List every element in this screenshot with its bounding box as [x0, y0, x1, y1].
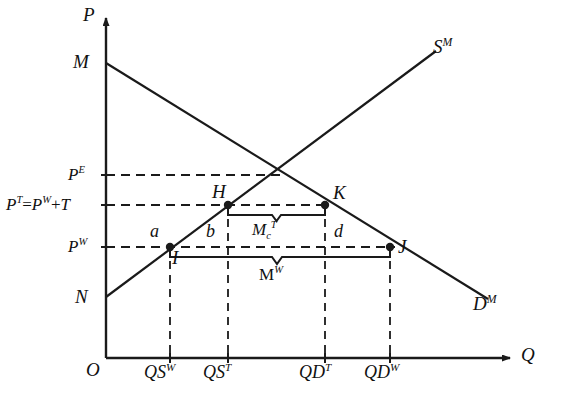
price-label-pw-base: P [68, 237, 78, 256]
supply-intercept-label: N [75, 287, 88, 306]
price-label-pw-sup: W [78, 236, 87, 247]
quantity-label-qdw: QDW [364, 362, 399, 381]
area-label-a: a [150, 222, 159, 240]
brace-label-mw-base: M [259, 265, 274, 284]
price-label-pt-tax: T [61, 195, 70, 214]
x-axis-label: Q [521, 345, 535, 364]
brace-label-mct-sub: c [266, 230, 271, 241]
point-label-K: K [333, 183, 346, 202]
area-label-b: b [206, 222, 215, 240]
price-label-pt-plus: + [51, 195, 61, 214]
price-label-pe-sup: E [78, 164, 84, 175]
brace-mw [170, 251, 390, 264]
tariff-diagram: P Q O M N SM DM PE PT=PW+T PW QSW QST QD… [0, 0, 561, 410]
brace-label-mct: McT [252, 220, 277, 242]
brace-label-mw-sup: W [274, 264, 283, 275]
price-label-pt: PT=PW+T [6, 195, 70, 213]
quantity-label-qsw: QSW [144, 362, 175, 381]
point-label-J: J [398, 237, 406, 256]
point-H-marker [224, 201, 232, 209]
quantity-label-qst: QST [203, 362, 231, 381]
quantity-label-qdt: QDT [299, 362, 331, 381]
brace-label-mct-sup: T [271, 219, 277, 230]
quantity-label-qdt-sup: T [325, 361, 331, 373]
quantity-label-qst-base: QS [203, 362, 225, 382]
demand-curve-label-sup: M [487, 293, 497, 306]
supply-curve [106, 51, 436, 297]
price-label-pe-base: P [68, 165, 78, 184]
supply-curve-label: SM [433, 37, 452, 56]
supply-curve-label-sup: M [443, 36, 453, 49]
quantity-label-qsw-base: QS [144, 362, 166, 382]
quantity-label-qst-sup: T [225, 361, 231, 373]
brace-label-mw: MW [259, 265, 283, 283]
quantity-label-qdw-sup: W [390, 361, 399, 373]
price-label-pw: PW [68, 237, 87, 255]
point-label-H: H [212, 182, 226, 201]
origin-label: O [86, 360, 100, 379]
demand-curve-label-base: D [473, 293, 487, 314]
price-label-pt-rhs-base: P [32, 195, 42, 214]
quantity-label-qsw-sup: W [166, 361, 175, 373]
demand-intercept-label: M [73, 52, 89, 71]
y-axis-label: P [83, 5, 95, 24]
point-label-I: I [172, 248, 178, 267]
price-label-pt-equals: = [22, 195, 32, 214]
point-K-marker [321, 201, 329, 209]
quantity-label-qdt-base: QD [299, 362, 325, 382]
area-label-d: d [334, 222, 343, 240]
price-label-pt-rhs-sup: W [42, 194, 51, 205]
quantity-label-qdw-base: QD [364, 362, 390, 382]
brace-label-mct-base: M [252, 220, 266, 239]
price-label-pt-base: P [6, 195, 16, 214]
demand-curve-label: DM [473, 294, 497, 313]
demand-curve [106, 63, 488, 299]
supply-curve-label-base: S [433, 36, 443, 57]
point-J-marker [386, 243, 394, 251]
price-label-pe: PE [68, 165, 85, 183]
